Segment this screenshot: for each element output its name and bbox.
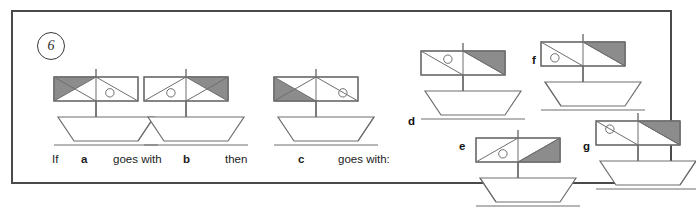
option-label-f[interactable]: f: [532, 54, 536, 66]
prompt-word: If: [52, 153, 58, 165]
prompt-word: then: [225, 153, 247, 165]
boat-figure-c: [266, 69, 374, 151]
boat-figure-f[interactable]: [533, 34, 641, 116]
boat-figure-g[interactable]: [588, 113, 696, 195]
option-label-g[interactable]: g: [583, 140, 590, 152]
question-number: 6: [48, 38, 55, 54]
boat-figure-d[interactable]: [413, 43, 521, 125]
option-label-d[interactable]: d: [408, 115, 415, 127]
question-frame: 6 defg Ifagoes withbthencgoes with:: [11, 10, 672, 184]
boat-figure-e[interactable]: [468, 130, 576, 212]
prompt-ref-c: c: [298, 153, 304, 165]
prompt-word: goes with: [113, 153, 162, 165]
question-number-badge: 6: [37, 32, 65, 60]
prompt-word: goes with:: [338, 153, 390, 165]
prompt-ref-b: b: [183, 153, 190, 165]
prompt-ref-a: a: [81, 153, 87, 165]
option-label-e[interactable]: e: [459, 140, 465, 152]
boat-figure-b: [136, 69, 244, 151]
